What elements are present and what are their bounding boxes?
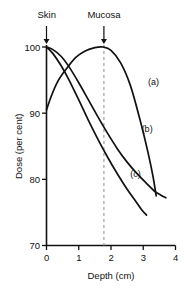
curve-label-c: (c) <box>130 169 141 179</box>
skin-marker-label: Skin <box>38 9 56 20</box>
mucosa-marker-label: Mucosa <box>87 9 120 20</box>
curve-label-a: (a) <box>148 77 159 87</box>
y-tick-label-70: 70 <box>30 240 41 251</box>
x-tick-label-4: 4 <box>173 252 178 263</box>
marker-arrow-head <box>44 39 50 44</box>
dose-depth-chart: Skin Mucosa 100 90 80 70 0 1 2 3 4 Dose … <box>0 0 188 291</box>
x-tick-label-0: 0 <box>44 252 49 263</box>
dose-curve-c <box>47 47 147 215</box>
x-axis-title: Depth (cm) <box>88 270 135 281</box>
x-tick-label-2: 2 <box>109 252 114 263</box>
x-tick-label-1: 1 <box>76 252 81 263</box>
x-tick-label-3: 3 <box>141 252 146 263</box>
marker-arrow-head <box>101 39 107 44</box>
y-tick-label-80: 80 <box>30 174 41 185</box>
y-tick-label-100: 100 <box>25 42 41 53</box>
curve-label-b: (b) <box>142 124 153 134</box>
y-axis-title: Dose (per cent) <box>13 113 24 178</box>
marker-arrows-group <box>44 26 107 44</box>
y-tick-label-90: 90 <box>30 108 41 119</box>
